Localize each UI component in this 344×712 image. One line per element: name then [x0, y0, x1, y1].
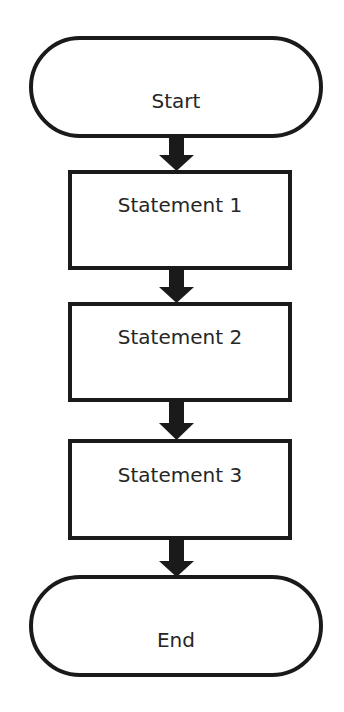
flowchart: Start Statement 1 Statement 2 Statement …	[0, 0, 344, 712]
statement-1-label: Statement 1	[118, 193, 242, 217]
arrow-s1-to-s2	[159, 268, 194, 303]
statement-2-node: Statement 2	[70, 304, 290, 400]
end-label: End	[157, 628, 195, 652]
arrow-start-to-s1	[159, 136, 194, 171]
start-node: Start	[31, 38, 321, 136]
start-label: Start	[152, 89, 201, 113]
statement-3-label: Statement 3	[118, 463, 242, 487]
statement-1-node: Statement 1	[70, 172, 290, 268]
statement-3-node: Statement 3	[70, 441, 290, 538]
arrow-s2-to-s3	[159, 400, 194, 440]
statement-2-label: Statement 2	[118, 325, 242, 349]
arrow-s3-to-end	[159, 538, 194, 577]
end-node: End	[31, 577, 321, 675]
